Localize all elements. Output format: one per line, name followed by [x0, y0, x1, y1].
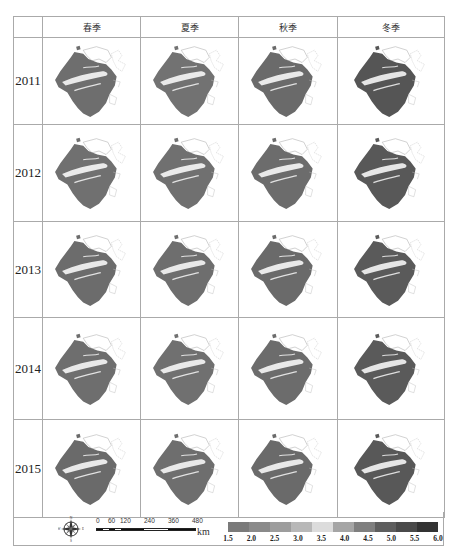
choropleth-map — [244, 427, 332, 511]
map-cell — [239, 38, 338, 125]
map-cell — [43, 318, 141, 420]
map-cell — [43, 420, 141, 518]
scale-bar-graphic — [96, 528, 196, 531]
map-cell — [43, 38, 141, 125]
column-header-spring: 春季 — [43, 17, 141, 38]
map-cell — [239, 125, 338, 222]
colorbar-swatch — [354, 522, 375, 532]
year-row-2012: 2012 — [14, 125, 445, 222]
scale-tick-label: 360 — [168, 517, 179, 524]
choropleth-map — [48, 228, 136, 312]
colorbar-swatch — [228, 522, 249, 532]
colorbar — [228, 522, 438, 532]
choropleth-map — [244, 41, 332, 121]
colorbar-swatch — [291, 522, 312, 532]
corner-cell — [14, 17, 43, 38]
scale-bar: 060120240360480 km — [96, 517, 206, 541]
choropleth-map — [347, 327, 435, 411]
colorbar-tick-label: 3.0 — [293, 534, 302, 543]
choropleth-map — [347, 131, 435, 215]
map-cell — [141, 222, 239, 318]
map-cell — [338, 38, 445, 125]
colorbar-tick-label: 1.5 — [223, 534, 232, 543]
map-cell — [141, 125, 239, 222]
choropleth-map — [146, 327, 234, 411]
row-label-year: 2012 — [14, 125, 43, 222]
scale-tick-label: 240 — [144, 517, 155, 524]
colorbar-tick-label: 4.0 — [340, 534, 349, 543]
colorbar-tick-label: 2.5 — [270, 534, 279, 543]
choropleth-map — [146, 131, 234, 215]
map-cell — [43, 222, 141, 318]
row-label-year: 2013 — [14, 222, 43, 318]
choropleth-map — [48, 327, 136, 411]
choropleth-map — [347, 228, 435, 312]
choropleth-map — [244, 228, 332, 312]
colorbar-ticks: 1.52.02.53.03.54.04.55.05.56.0 — [222, 534, 444, 544]
column-header-summer: 夏季 — [141, 17, 239, 38]
year-row-2014: 2014 — [14, 318, 445, 420]
colorbar-tick-label: 4.5 — [363, 534, 372, 543]
choropleth-map — [146, 41, 234, 121]
map-grid: 春季 夏季 秋季 冬季 20112012201320142015 — [13, 16, 444, 518]
colorbar-swatch — [312, 522, 333, 532]
legend-row: N S E W 060120240360480 km 1.52.02.53.03… — [13, 512, 444, 546]
choropleth-map — [146, 228, 234, 312]
map-cell — [338, 125, 445, 222]
year-row-2013: 2013 — [14, 222, 445, 318]
choropleth-map — [347, 41, 435, 121]
year-row-2015: 2015 — [14, 420, 445, 518]
svg-text:W: W — [58, 527, 61, 531]
colorbar-swatch — [333, 522, 354, 532]
colorbar-tick-label: 5.0 — [387, 534, 396, 543]
colorbar-swatch — [270, 522, 291, 532]
header-row: 春季 夏季 秋季 冬季 — [14, 17, 445, 38]
map-cell — [338, 222, 445, 318]
choropleth-map — [347, 427, 435, 511]
map-cell — [338, 318, 445, 420]
choropleth-map — [48, 427, 136, 511]
row-label-year: 2011 — [14, 38, 43, 125]
svg-text:N: N — [70, 516, 73, 520]
map-cell — [141, 38, 239, 125]
map-cell — [43, 125, 141, 222]
choropleth-map — [48, 41, 136, 121]
row-label-year: 2014 — [14, 318, 43, 420]
scale-tick-label: 0 — [96, 517, 100, 524]
svg-text:E: E — [82, 527, 84, 531]
scale-unit: km — [197, 526, 210, 537]
year-row-2011: 2011 — [14, 38, 445, 125]
colorbar-swatch — [417, 522, 438, 532]
map-cell — [141, 420, 239, 518]
choropleth-map — [244, 327, 332, 411]
column-header-winter: 冬季 — [338, 17, 445, 38]
scale-tick-label: 60 — [108, 517, 115, 524]
svg-text:S: S — [70, 539, 72, 542]
column-header-autumn: 秋季 — [239, 17, 338, 38]
colorbar-tick-label: 3.5 — [317, 534, 326, 543]
colorbar-tick-label: 6.0 — [433, 534, 442, 543]
map-cell — [141, 318, 239, 420]
season-year-table: 春季 夏季 秋季 冬季 20112012201320142015 — [13, 16, 445, 518]
colorbar-swatch — [396, 522, 417, 532]
choropleth-map — [146, 427, 234, 511]
colorbar-tick-label: 2.0 — [247, 534, 256, 543]
scale-tick-label: 120 — [120, 517, 131, 524]
map-cell — [239, 318, 338, 420]
colorbar-tick-label: 5.5 — [410, 534, 419, 543]
colorbar-swatch — [249, 522, 270, 532]
map-cell — [239, 222, 338, 318]
choropleth-map — [48, 131, 136, 215]
choropleth-map — [244, 131, 332, 215]
row-label-year: 2015 — [14, 420, 43, 518]
colorbar-swatch — [375, 522, 396, 532]
map-cell — [338, 420, 445, 518]
compass-rose-icon: N S E W — [58, 516, 84, 542]
map-cell — [239, 420, 338, 518]
scale-tick-label: 480 — [192, 517, 203, 524]
